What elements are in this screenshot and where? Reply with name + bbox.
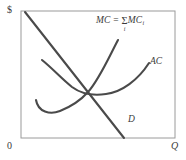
marginal-cost-curve (36, 40, 118, 113)
average-cost-label: AC (150, 57, 162, 67)
mc-term-group: MC i (128, 16, 144, 26)
mc-term-subscript: i (142, 20, 144, 26)
average-cost-curve (42, 60, 149, 95)
x-axis-label: Q (171, 141, 178, 151)
demand-label: D (128, 115, 135, 125)
chart-canvas (0, 0, 186, 160)
y-axis-label: $ (7, 5, 12, 15)
marginal-cost-equation-label: MC = Σ i MC i (96, 16, 144, 32)
origin-label: 0 (7, 141, 12, 151)
mc-term-text: MC (128, 16, 142, 26)
sigma-subscript: i (124, 26, 126, 32)
mc-lead-text: MC (96, 16, 110, 26)
chart-figure: $ 0 Q MC = Σ i MC i AC D (0, 0, 186, 160)
equals-sign: = (113, 16, 118, 26)
